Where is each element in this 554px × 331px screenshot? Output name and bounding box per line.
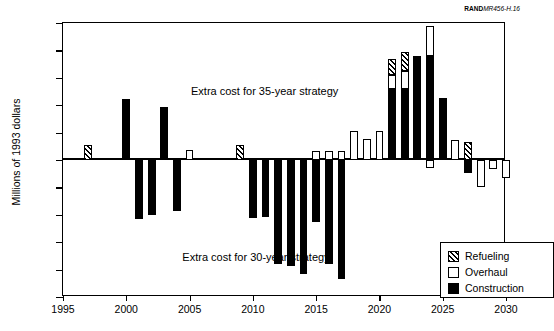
bar-segment-construction <box>173 160 181 211</box>
y-tick <box>56 270 63 271</box>
y-tick <box>56 78 63 79</box>
bar-segment-construction <box>388 89 396 160</box>
bar-2000 <box>122 23 130 297</box>
legend-item-refueling: Refueling <box>448 248 553 264</box>
legend-label: Refueling <box>465 251 509 262</box>
bar-2004 <box>173 23 181 297</box>
bar-segment-refueling <box>236 145 244 160</box>
legend: RefuelingOverhaulConstruction <box>440 242 554 298</box>
bar-2024 <box>426 23 434 297</box>
bar-2018 <box>350 23 358 297</box>
bar-segment-construction <box>325 160 333 264</box>
hatched-swatch <box>448 251 459 262</box>
x-tick-label: 2025 <box>420 303 466 315</box>
legend-label: Overhaul <box>465 267 508 278</box>
legend-item-construction: Construction <box>448 280 553 296</box>
x-tick <box>63 295 64 301</box>
black-swatch <box>448 283 459 294</box>
bar-2021 <box>388 23 396 297</box>
credit-bold: RAND <box>464 5 483 12</box>
bar-segment-overhaul <box>401 71 409 89</box>
y-tick <box>56 215 63 216</box>
credit-italic: MR456-H.16 <box>483 5 520 12</box>
bar-segment-construction <box>338 160 346 279</box>
bar-segment-construction <box>401 89 409 160</box>
bar-1997 <box>84 23 92 297</box>
x-tick-label: 2020 <box>356 303 402 315</box>
annotation-30-year: Extra cost for 30-year strategy <box>181 251 331 264</box>
bar-segment-overhaul <box>186 150 194 160</box>
bar-2001 <box>135 23 143 297</box>
bar-2017 <box>338 23 346 297</box>
bar-2020 <box>376 23 384 297</box>
x-tick-label: 2030 <box>483 303 529 315</box>
y-tick <box>56 187 63 188</box>
bar-segment-overhaul <box>325 151 333 160</box>
bar-2003 <box>160 23 168 297</box>
bar-segment-construction <box>287 160 295 266</box>
bar-segment-overhaul <box>477 160 485 187</box>
bar-segment-refueling <box>388 59 396 75</box>
bar-segment-construction <box>464 160 472 173</box>
y-tick <box>56 133 63 134</box>
bar-segment-construction <box>413 56 421 160</box>
bar-2002 <box>148 23 156 297</box>
x-tick-label: 2000 <box>103 303 149 315</box>
bar-segment-overhaul <box>312 151 320 160</box>
bar-segment-construction <box>426 56 434 160</box>
y-tick <box>56 297 63 298</box>
bar-segment-overhaul <box>338 151 346 160</box>
x-tick-label: 1995 <box>40 303 86 315</box>
bar-segment-construction <box>274 160 282 264</box>
bar-segment-overhaul <box>426 26 434 56</box>
y-tick <box>56 50 63 51</box>
plot-area: 25002000150010005000-500-1000-1500-2000-… <box>62 22 505 296</box>
bar-segment-refueling <box>84 145 92 160</box>
legend-item-overhaul: Overhaul <box>448 264 553 280</box>
bar-segment-construction <box>439 98 447 160</box>
bar-2019 <box>363 23 371 297</box>
bar-segment-overhaul <box>502 160 510 178</box>
bar-segment-construction <box>148 160 156 215</box>
bar-segment-overhaul <box>426 160 434 168</box>
bar-segment-overhaul <box>376 131 384 160</box>
y-tick <box>56 242 63 243</box>
x-tick-label: 2010 <box>230 303 276 315</box>
bar-segment-construction <box>135 160 143 219</box>
bar-segment-overhaul <box>489 160 497 169</box>
legend-label: Construction <box>465 283 524 294</box>
bar-segment-overhaul <box>363 139 371 160</box>
bar-segment-overhaul <box>451 140 459 160</box>
bar-segment-overhaul <box>388 75 396 89</box>
white-swatch <box>448 267 459 278</box>
y-tick <box>56 105 63 106</box>
y-axis-title: Millions of 1993 dollars <box>10 52 22 252</box>
bar-2022 <box>401 23 409 297</box>
bar-segment-construction <box>262 160 270 217</box>
x-tick-label: 2015 <box>293 303 339 315</box>
bar-2023 <box>413 23 421 297</box>
bar-segment-overhaul <box>350 131 358 160</box>
bar-segment-refueling <box>464 142 472 160</box>
bar-segment-construction <box>160 107 168 160</box>
x-tick-label: 2005 <box>167 303 213 315</box>
rand-credit-line: RANDMR456-H.16 <box>464 5 520 13</box>
y-tick <box>56 23 63 24</box>
bar-segment-construction <box>312 160 320 222</box>
bar-segment-refueling <box>401 52 409 71</box>
bar-segment-construction <box>122 99 130 160</box>
bar-segment-construction <box>249 160 257 218</box>
y-tick <box>56 160 63 161</box>
annotation-35-year: Extra cost for 35-year strategy <box>191 85 338 98</box>
